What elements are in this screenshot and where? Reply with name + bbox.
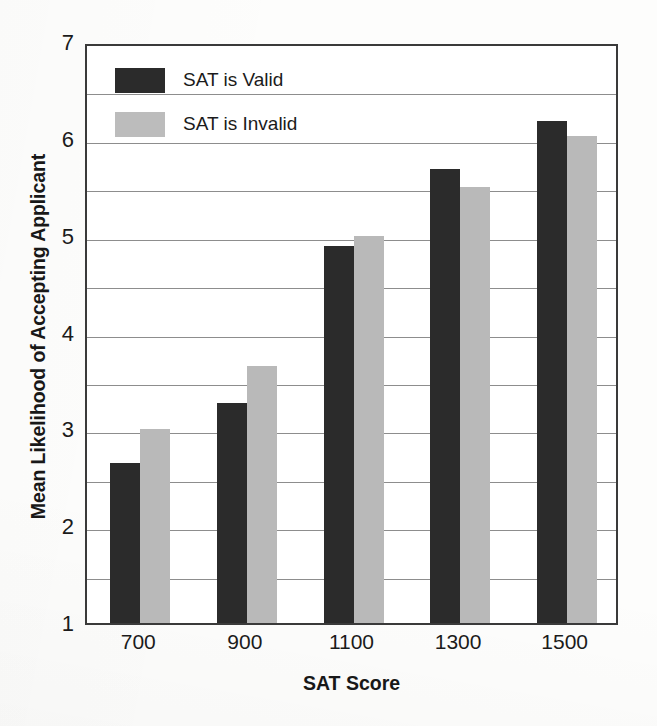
bar-valid-900 [217,403,247,623]
chart-legend: SAT is Valid SAT is Invalid [115,58,375,146]
bar-valid-1100 [324,246,354,623]
x-tick-label-700: 700 [85,630,192,654]
x-tick-label-1100: 1100 [298,630,405,654]
x-tick-label-900: 900 [192,630,299,654]
bar-valid-700 [110,463,140,623]
y-tick-label: 1 [44,613,74,635]
legend-label-invalid: SAT is Invalid [183,113,297,135]
plot-area: SAT is Valid SAT is Invalid [85,44,618,625]
y-axis-tick-labels: 7654321 [42,0,74,726]
legend-item-valid: SAT is Valid [115,58,375,102]
y-tick-label: 7 [44,32,74,54]
y-tick-label: 2 [44,516,74,538]
bar-invalid-1100 [354,236,384,623]
y-tick-label: 5 [44,226,74,248]
x-axis-title: SAT Score [85,672,618,695]
x-tick-label-1300: 1300 [405,630,512,654]
bar-invalid-900 [247,366,277,623]
bar-invalid-1500 [567,136,597,623]
bar-valid-1300 [430,169,460,623]
legend-label-valid: SAT is Valid [183,69,283,91]
y-tick-label: 6 [44,129,74,151]
bar-chart-figure: Mean Likelihood of Accepting Applicant 7… [0,0,657,726]
bar-invalid-700 [140,429,170,623]
bar-valid-1500 [537,121,567,623]
bar-invalid-1300 [460,187,490,623]
legend-item-invalid: SAT is Invalid [115,102,375,146]
legend-swatch-invalid-icon [115,112,165,137]
x-axis-tick-labels: 700900110013001500 [85,630,618,664]
legend-swatch-valid-icon [115,68,165,93]
x-tick-label-1500: 1500 [511,630,618,654]
y-tick-label: 3 [44,419,74,441]
y-tick-label: 4 [44,323,74,345]
